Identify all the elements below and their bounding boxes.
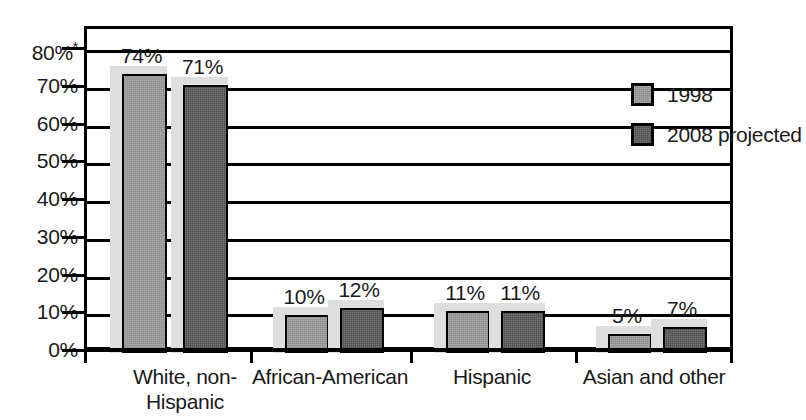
bar bbox=[340, 308, 384, 353]
bar bbox=[446, 311, 490, 353]
bar-shadow-top bbox=[596, 326, 652, 334]
y-axis-tick-mark bbox=[62, 85, 84, 88]
bar-value-label: 7% bbox=[642, 298, 722, 319]
bar bbox=[183, 85, 228, 353]
category-axis-right-cap bbox=[730, 352, 733, 363]
y-axis-tick-mark bbox=[62, 349, 84, 352]
y-axis-tick-mark bbox=[62, 198, 84, 201]
bar bbox=[501, 311, 545, 353]
category-divider-tick bbox=[250, 352, 253, 363]
bar-shadow-top bbox=[273, 307, 329, 315]
bar-shadow-top bbox=[110, 66, 167, 74]
category-axis-left-cap bbox=[84, 352, 87, 363]
category-divider-tick bbox=[575, 352, 578, 363]
category-label: Asian and other bbox=[554, 364, 754, 389]
y-axis-tick-mark bbox=[62, 274, 84, 277]
y-axis: 80%*70%60%50%40%30%20%10%0% bbox=[0, 0, 78, 420]
legend-swatch-icon bbox=[631, 123, 654, 146]
legend-label: 1998 bbox=[667, 84, 713, 105]
y-axis-tick-label: 80%* bbox=[32, 37, 78, 63]
y-axis-tick-mark bbox=[62, 123, 84, 126]
bar-shadow-top bbox=[171, 77, 228, 85]
legend-item: 2008 projected bbox=[631, 114, 806, 154]
y-axis-tick-mark bbox=[62, 160, 84, 163]
y-axis-tick-mark bbox=[62, 311, 84, 314]
bar-value-label: 11% bbox=[480, 282, 560, 303]
legend-label: 2008 projected bbox=[667, 124, 802, 145]
bar bbox=[122, 74, 167, 353]
category-axis-line bbox=[84, 348, 733, 352]
bar-shadow bbox=[171, 77, 183, 353]
legend-swatch-icon bbox=[631, 83, 654, 106]
bar-shadow bbox=[110, 66, 122, 353]
y-axis-tick-mark bbox=[62, 236, 84, 239]
legend-item: 1998 bbox=[631, 74, 806, 114]
category-divider-tick bbox=[410, 352, 413, 363]
legend: 19982008 projected bbox=[631, 74, 806, 154]
gridline bbox=[87, 50, 730, 53]
bar-shadow-top bbox=[434, 303, 490, 311]
y-axis-tick-mark bbox=[62, 47, 84, 50]
bar-value-label: 71% bbox=[163, 56, 243, 77]
bar-value-label: 12% bbox=[319, 279, 399, 300]
bar-shadow-top bbox=[489, 303, 545, 311]
